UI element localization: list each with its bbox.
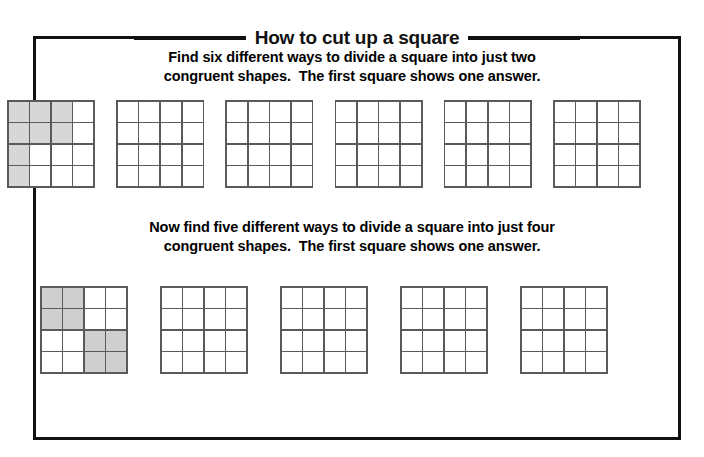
grid-cell[interactable] [249,166,269,186]
grid-cell[interactable] [402,352,422,372]
grid-cell[interactable] [555,123,575,143]
grid-cell[interactable] [282,352,302,372]
grid-cell[interactable] [139,123,159,143]
grid-cell[interactable] [586,331,606,351]
grid-cell[interactable] [42,331,62,351]
grid-cell[interactable] [576,166,596,186]
grid-cell[interactable] [183,123,203,143]
grid-cell[interactable] [402,309,422,329]
grid-cell[interactable] [555,145,575,165]
grid-cell[interactable] [510,123,530,143]
grid-cell[interactable] [226,288,246,308]
square-grid[interactable] [400,286,488,374]
grid-cell[interactable] [52,145,72,165]
grid-cell[interactable] [336,123,356,143]
grid-cell[interactable] [270,145,290,165]
grid-cell[interactable] [543,352,563,372]
grid-cell[interactable] [227,166,247,186]
grid-cell[interactable] [106,352,126,372]
grid-cell[interactable] [358,102,378,122]
grid-cell[interactable] [183,288,203,308]
grid-cell[interactable] [402,331,422,351]
grid-cell[interactable] [510,145,530,165]
grid-cell[interactable] [63,309,83,329]
grid-cell[interactable] [445,309,465,329]
grid-cell[interactable] [139,145,159,165]
grid-cell[interactable] [282,309,302,329]
grid-cell[interactable] [565,288,585,308]
grid-cell[interactable] [423,331,443,351]
grid-cell[interactable] [346,331,366,351]
grid-cell[interactable] [489,145,509,165]
grid-cell[interactable] [226,331,246,351]
grid-cell[interactable] [162,331,182,351]
grid-cell[interactable] [30,145,50,165]
grid-cell[interactable] [576,145,596,165]
grid-cell[interactable] [466,309,486,329]
grid-cell[interactable] [325,352,345,372]
grid-cell[interactable] [336,166,356,186]
grid-cell[interactable] [161,123,181,143]
grid-cell[interactable] [489,123,509,143]
grid-cell[interactable] [510,166,530,186]
square-grid[interactable] [444,100,532,188]
grid-cell[interactable] [63,352,83,372]
square-grid[interactable] [553,100,641,188]
grid-cell[interactable] [619,166,639,186]
grid-cell[interactable] [401,166,421,186]
grid-cell[interactable] [63,288,83,308]
grid-cell[interactable] [303,309,323,329]
grid-cell[interactable] [226,309,246,329]
grid-cell[interactable] [73,123,93,143]
grid-cell[interactable] [162,288,182,308]
grid-cell[interactable] [85,309,105,329]
grid-cell[interactable] [346,309,366,329]
grid-cell[interactable] [522,288,542,308]
grid-cell[interactable] [423,352,443,372]
grid-cell[interactable] [586,352,606,372]
grid-cell[interactable] [9,145,29,165]
grid-cell[interactable] [565,331,585,351]
grid-cell[interactable] [379,123,399,143]
grid-cell[interactable] [489,102,509,122]
grid-cell[interactable] [63,331,83,351]
grid-cell[interactable] [598,166,618,186]
grid-cell[interactable] [358,123,378,143]
grid-cell[interactable] [118,145,138,165]
grid-cell[interactable] [30,166,50,186]
grid-cell[interactable] [183,166,203,186]
grid-cell[interactable] [543,331,563,351]
grid-cell[interactable] [522,352,542,372]
grid-cell[interactable] [9,166,29,186]
grid-cell[interactable] [52,166,72,186]
grid-cell[interactable] [183,102,203,122]
grid-cell[interactable] [292,123,312,143]
grid-cell[interactable] [205,352,225,372]
grid-cell[interactable] [401,102,421,122]
grid-cell[interactable] [336,102,356,122]
grid-cell[interactable] [402,288,422,308]
grid-cell[interactable] [576,102,596,122]
grid-cell[interactable] [85,352,105,372]
grid-cell[interactable] [466,352,486,372]
grid-cell[interactable] [466,331,486,351]
grid-cell[interactable] [249,145,269,165]
grid-cell[interactable] [489,166,509,186]
grid-cell[interactable] [249,102,269,122]
grid-cell[interactable] [205,309,225,329]
grid-cell[interactable] [161,166,181,186]
grid-cell[interactable] [106,309,126,329]
grid-cell[interactable] [510,102,530,122]
grid-cell[interactable] [106,288,126,308]
grid-cell[interactable] [205,331,225,351]
grid-cell[interactable] [161,102,181,122]
grid-cell[interactable] [303,288,323,308]
grid-cell[interactable] [226,352,246,372]
grid-cell[interactable] [325,331,345,351]
grid-cell[interactable] [42,288,62,308]
grid-cell[interactable] [445,123,465,143]
grid-cell[interactable] [379,102,399,122]
grid-cell[interactable] [85,331,105,351]
grid-cell[interactable] [358,166,378,186]
grid-cell[interactable] [205,288,225,308]
